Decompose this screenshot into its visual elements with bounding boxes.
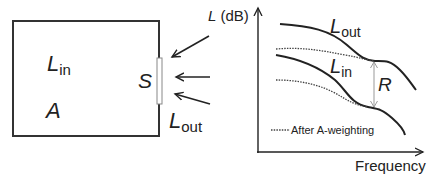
outside-level-label: Lout [169, 108, 203, 135]
partition-surface [157, 58, 162, 104]
surface-label: S [138, 69, 152, 92]
sound-arrow-lower [175, 94, 210, 104]
y-axis-label: L (dB) [208, 7, 249, 24]
inside-level-label: Lin [47, 51, 71, 78]
difference-label: R [378, 74, 392, 95]
curve-inside-weighted [276, 80, 368, 107]
x-axis-label: Frequency [355, 157, 426, 174]
curve-outside-label: Lout [330, 15, 361, 40]
curve-inside-label: Lin [330, 55, 352, 80]
absorption-label: A [44, 98, 61, 123]
legend-label: After A-weighting [291, 124, 374, 136]
sound-insulation-diagram: Lin A S Lout L (dB) Frequency Lout Lin R… [0, 0, 435, 180]
sound-arrow-upper [172, 36, 209, 57]
